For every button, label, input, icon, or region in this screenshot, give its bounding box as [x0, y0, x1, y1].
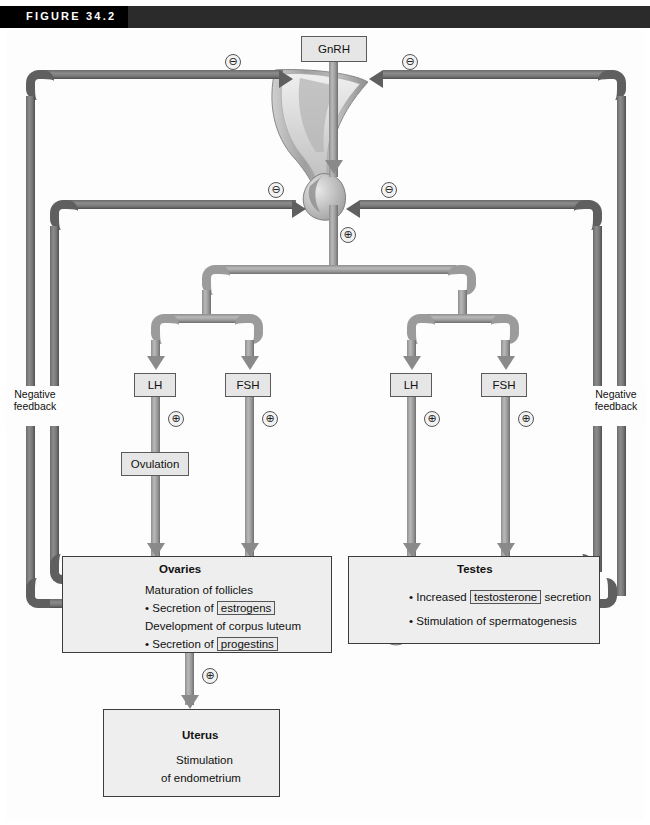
feedback-mid-right-arrowhead	[346, 200, 360, 218]
feedback-top-right-arrowhead	[369, 70, 383, 88]
ovaries-line-3: Development of corpus luteum	[145, 620, 301, 632]
minus-sign-pituitary-right: ⊖	[381, 182, 397, 198]
ovaries-line-2: • Secretion of estrogens	[145, 602, 275, 614]
uterus-panel: Uterus Stimulation of endometrium	[103, 709, 280, 797]
left-lh-arrowhead	[147, 356, 165, 370]
feedback-right-rail2-upper	[593, 226, 602, 386]
feedback-mid-left-arrowhead	[292, 200, 306, 218]
negative-feedback-label-left: Negative feedback	[4, 386, 66, 426]
ovaries-line-4: • Secretion of progestins	[145, 638, 278, 650]
pituitary-output-pipe	[329, 205, 338, 270]
testes-line-1-post: secretion	[544, 591, 591, 603]
feedback-top-left-arrowhead	[279, 70, 293, 88]
figure-header-bar: FIGURE 34.2	[0, 6, 650, 28]
lh-label-left: LH	[148, 379, 163, 391]
plus-sign-fsh-left: ⊕	[262, 411, 278, 427]
negative-feedback-right-line1: Negative	[585, 388, 647, 400]
fsh-right-downpipe	[501, 397, 510, 557]
plus-sign-pituitary-output: ⊕	[340, 227, 356, 243]
feedback-left-rail-upper	[26, 96, 35, 386]
fsh-left-downpipe	[245, 397, 254, 557]
negative-feedback-label-right: Negative feedback	[585, 386, 647, 426]
feedback-right-rail2-lower	[593, 424, 602, 572]
trunk-horizontal-bar	[216, 265, 456, 274]
negative-feedback-left-line2: feedback	[4, 400, 66, 412]
testes-line-1: • Increased testosterone secretion	[409, 591, 591, 603]
right-lh-arrowhead	[403, 356, 421, 370]
uterus-line-1: Stimulation	[176, 754, 233, 766]
minus-sign-hypothalamus-right: ⊖	[402, 54, 418, 70]
fsh-box-right: FSH	[481, 373, 527, 397]
lh-left-downpipe	[151, 397, 160, 557]
uterus-title: Uterus	[182, 729, 218, 741]
plus-sign-lh-right: ⊕	[424, 411, 440, 427]
feedback-left-rail2-lower	[50, 424, 59, 572]
plus-sign-fsh-right: ⊕	[518, 411, 534, 427]
lh-right-arrowhead-testes	[403, 543, 421, 557]
lh-left-arrowhead-ovaries	[147, 543, 165, 557]
negative-feedback-right-line2: feedback	[585, 400, 647, 412]
feedback-left-rail-lower	[26, 424, 35, 596]
feedback-mid-left-horizontal	[64, 200, 296, 209]
estrogens-keyword: estrogens	[217, 601, 276, 615]
feedback-right-rail-lower	[617, 424, 626, 596]
fsh-label-right: FSH	[493, 379, 516, 391]
ovaries-line-1: Maturation of follicles	[145, 584, 253, 596]
plus-sign-uterus: ⊕	[202, 668, 218, 684]
minus-sign-pituitary-left: ⊖	[268, 182, 284, 198]
fsh-right-arrowhead-testes	[497, 543, 515, 557]
gnrh-label: GnRH	[318, 43, 350, 55]
testes-line-2: • Stimulation of spermatogenesis	[409, 615, 577, 627]
testes-panel: Testes • Increased testosterone secretio…	[348, 556, 600, 644]
figure-plate	[6, 30, 644, 820]
fsh-label-left: FSH	[237, 379, 260, 391]
lh-right-downpipe	[407, 397, 416, 557]
feedback-left-rail2-upper	[50, 226, 59, 386]
testes-line-1-pre: • Increased	[409, 591, 467, 603]
lh-box-right: LH	[390, 373, 432, 397]
left-fsh-arrowhead	[241, 356, 259, 370]
progestins-keyword: progestins	[217, 637, 278, 651]
ovaries-panel: Ovaries Maturation of follicles • Secret…	[62, 556, 332, 653]
right-fsh-arrowhead	[497, 356, 515, 370]
uterus-line-2: of endometrium	[161, 772, 241, 784]
testes-title: Testes	[457, 563, 493, 575]
lh-box-left: LH	[134, 373, 176, 397]
gnrh-arrowhead	[325, 160, 343, 174]
fsh-box-left: FSH	[225, 373, 271, 397]
gnrh-box: GnRH	[301, 36, 367, 62]
feedback-mid-right-horizontal	[360, 200, 588, 209]
minus-sign-hypothalamus-left: ⊖	[225, 54, 241, 70]
testosterone-keyword: testosterone	[470, 590, 541, 604]
ovaries-line-4-text: • Secretion of	[145, 638, 214, 650]
ovaries-to-uterus-arrowhead	[181, 695, 199, 709]
ovaries-title: Ovaries	[159, 563, 201, 575]
lh-label-right: LH	[404, 379, 419, 391]
feedback-top-right-horizontal	[383, 70, 612, 79]
ovaries-line-2-text: • Secretion of	[145, 602, 214, 614]
feedback-right-rail-upper	[617, 96, 626, 386]
ovulation-label: Ovulation	[131, 458, 180, 470]
plus-sign-lh-left: ⊕	[168, 411, 184, 427]
ovulation-box: Ovulation	[121, 452, 189, 476]
figure-label: FIGURE 34.2	[26, 10, 116, 22]
negative-feedback-left-line1: Negative	[4, 388, 66, 400]
feedback-top-left-horizontal	[40, 70, 283, 79]
fsh-left-arrowhead-ovaries	[241, 543, 259, 557]
